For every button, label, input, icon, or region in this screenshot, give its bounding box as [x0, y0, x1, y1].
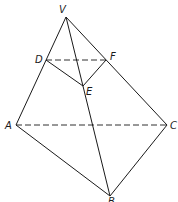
solid-edges — [16, 17, 167, 196]
label-V: V — [59, 4, 67, 15]
label-E: E — [86, 86, 93, 97]
edge-VC — [66, 17, 167, 125]
edge-CB — [110, 125, 167, 196]
label-B: B — [108, 196, 115, 202]
label-F: F — [110, 51, 116, 62]
edge-EF — [83, 60, 106, 86]
label-D: D — [35, 54, 43, 65]
edge-VB — [66, 17, 110, 196]
edge-VA — [16, 17, 66, 125]
pyramid-diagram: V D F E A C B — [0, 0, 178, 202]
label-C: C — [170, 120, 177, 131]
label-A: A — [4, 120, 12, 131]
vertex-labels: V D F E A C B — [4, 4, 177, 202]
edge-AB — [16, 125, 110, 196]
